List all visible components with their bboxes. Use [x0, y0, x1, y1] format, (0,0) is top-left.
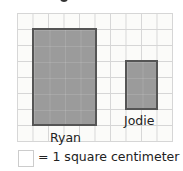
ryan-label: Ryan — [50, 130, 81, 145]
jodie-label: Jodie — [124, 113, 154, 128]
title-fragment — [60, 0, 68, 2]
jodie-rectangle — [125, 60, 158, 110]
legend-text: = 1 square centimeter — [38, 149, 179, 164]
legend-square-icon — [18, 150, 34, 167]
ryan-rectangle — [32, 28, 97, 126]
